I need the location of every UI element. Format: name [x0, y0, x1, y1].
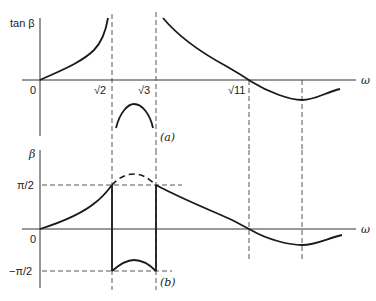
panel-a-branch-1-curve	[40, 18, 108, 80]
panel-a-middle-arch-curve	[116, 104, 153, 128]
panel-a-branch-3-curve	[163, 18, 340, 100]
panel-a-tick-sqrt2: √2	[94, 84, 106, 96]
panel-b-origin-label: 0	[30, 233, 36, 245]
panel-a-x-label: ω	[361, 74, 370, 87]
panel-b-tick-neg-pi-half: −π/2	[9, 265, 32, 277]
panel-b-dashed-arch	[112, 174, 156, 185]
panel-b-y-label: β	[28, 148, 35, 161]
panel-b-x-label: ω	[361, 223, 370, 236]
panel-b-rising-curve	[40, 185, 112, 229]
panel-b-caption: (b)	[160, 276, 176, 289]
panel-a-y-label: tan β	[10, 17, 35, 29]
panel-a-tick-sqrt11: √11	[228, 84, 245, 96]
panel-a-origin-label: 0	[30, 84, 36, 96]
figure-canvas: tan β ω 0 √2 √3 √11 (a) β ω 0 π	[0, 0, 376, 301]
panel-b-tick-pi-half: π/2	[17, 179, 34, 191]
panel-a: tan β ω 0 √2 √3 √11 (a)	[10, 12, 370, 150]
panel-b: β ω 0 π/2 −π/2 (b)	[9, 148, 370, 290]
panel-a-caption: (a)	[160, 131, 175, 144]
panel-b-lower-arch	[112, 260, 156, 271]
panel-a-tick-sqrt3: √3	[138, 84, 150, 96]
